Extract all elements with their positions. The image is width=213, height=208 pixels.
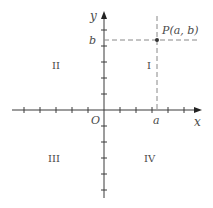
quadrant-ii-label: II bbox=[52, 60, 60, 71]
y-axis bbox=[101, 11, 107, 198]
quadrant-i-label: I bbox=[147, 60, 151, 71]
point-p bbox=[155, 38, 159, 42]
origin-label: O bbox=[91, 114, 100, 127]
coordinate-plane: y x O b a P(a, b) II I III IV bbox=[0, 0, 213, 208]
y-axis-label: y bbox=[89, 9, 97, 23]
quadrant-iv-label: IV bbox=[144, 153, 156, 164]
b-label: b bbox=[89, 34, 96, 47]
point-label: P(a, b) bbox=[161, 24, 199, 37]
y-axis-arrow-icon bbox=[101, 11, 107, 19]
x-axis bbox=[12, 107, 202, 113]
x-axis-arrow-icon bbox=[194, 107, 202, 113]
x-axis-label: x bbox=[194, 115, 201, 129]
a-label: a bbox=[153, 114, 160, 127]
quadrant-iii-label: III bbox=[48, 153, 60, 164]
